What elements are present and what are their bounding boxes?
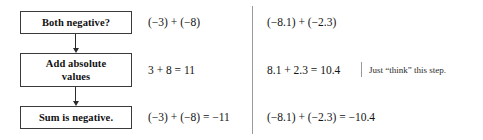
column-divider bbox=[252, 6, 253, 134]
arrow-step2-to-step3-icon bbox=[75, 87, 76, 102]
side-note-rule bbox=[361, 62, 362, 77]
flowchart-step-sum-is-negative: Sum is negative. bbox=[20, 106, 132, 129]
decimal-example-row1: (−8.1) + (−2.3) bbox=[267, 15, 336, 29]
decimal-example-row2: 8.1 + 2.3 = 10.4 bbox=[267, 63, 340, 77]
flowchart: Both negative? Add absolute values Sum i… bbox=[20, 0, 132, 140]
integer-example-row3: (−3) + (−8) = −11 bbox=[148, 110, 230, 124]
side-note-text: Just “think” this step. bbox=[369, 64, 446, 76]
flowchart-step-both-negative: Both negative? bbox=[20, 11, 132, 34]
examples-area: (−3) + (−8) 3 + 8 = 11 (−3) + (−8) = −11… bbox=[148, 0, 483, 140]
decimal-example-row3: (−8.1) + (−2.3) = −10.4 bbox=[267, 110, 375, 124]
integer-example-row2: 3 + 8 = 11 bbox=[148, 63, 195, 77]
flowchart-step-1-label: Both negative? bbox=[42, 16, 110, 29]
arrow-step1-to-step2-icon bbox=[75, 34, 76, 49]
flowchart-step-2-label-line1: Add absolute bbox=[46, 57, 106, 70]
flowchart-step-3-label: Sum is negative. bbox=[39, 111, 113, 124]
flowchart-step-add-absolute-values: Add absolute values bbox=[20, 53, 132, 87]
flowchart-step-2-label-line2: values bbox=[46, 70, 106, 83]
worked-example-figure: Both negative? Add absolute values Sum i… bbox=[0, 0, 483, 140]
side-note: Just “think” this step. bbox=[361, 62, 446, 77]
integer-example-row1: (−3) + (−8) bbox=[148, 15, 200, 29]
